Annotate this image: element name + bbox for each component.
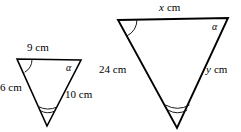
small-triangle-angle-arc-top-left (25, 59, 32, 72)
large-triangle-angle-arc-top-left (127, 20, 137, 36)
small-triangle-angle-arc-bottom-inner (40, 111, 55, 113)
large-triangle-right-label: ycm (206, 64, 227, 75)
geometry-figure: 9 cm 6 cm 10 cm α xcm 24 cm ycm α (0, 0, 241, 132)
large-triangle-alpha-label: α (212, 22, 217, 32)
small-triangle-alpha-label: α (66, 63, 71, 73)
large-triangle-right-unit: cm (214, 63, 227, 75)
small-triangle-right-label: 10 cm (65, 89, 92, 100)
large-triangle-top-variable: x (159, 1, 164, 13)
large-triangle-top-unit: cm (167, 1, 180, 13)
small-triangle-left-label: 6 cm (0, 82, 22, 93)
large-triangle-right-variable: y (206, 63, 211, 75)
small-triangle-top-label: 9 cm (27, 42, 49, 53)
large-triangle-top-label: xcm (159, 2, 180, 13)
small-triangle-angle-arc-bottom-outer (38, 106, 57, 109)
large-triangle-left-label: 24 cm (99, 64, 126, 75)
